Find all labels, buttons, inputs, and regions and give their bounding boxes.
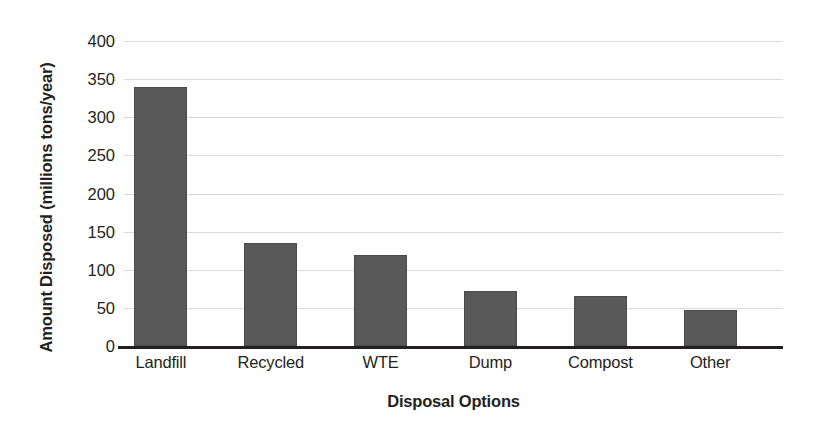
x-axis-title: Disposal Options — [124, 392, 783, 411]
y-axis-title-units: (millions tons/year) — [37, 63, 55, 210]
y-axis-title-bold: Amount Disposed — [37, 214, 55, 352]
bar-dump — [464, 291, 517, 346]
y-axis-tick-label: 300 — [87, 108, 115, 127]
x-axis-label-compost: Compost — [568, 353, 633, 372]
gridline — [124, 270, 783, 271]
gridline — [124, 232, 783, 233]
bar-other — [684, 310, 737, 346]
y-axis-tick-label: 400 — [87, 32, 115, 51]
y-axis-title: Amount Disposed (millions tons/year) — [0, 0, 92, 433]
y-axis-tick-label: 200 — [87, 184, 115, 203]
x-axis-label-recycled: Recycled — [238, 353, 304, 372]
plot-area: 400350300250200150100500 LandfillRecycle… — [124, 41, 783, 346]
x-axis-label-landfill: Landfill — [136, 353, 187, 372]
x-axis-line — [118, 346, 783, 349]
bar-wte — [354, 255, 407, 347]
gridline — [124, 117, 783, 118]
y-axis-tick-label: 150 — [87, 222, 115, 241]
bar-recycled — [244, 243, 297, 346]
y-axis-tick-label: 50 — [97, 298, 115, 317]
gridline — [124, 308, 783, 309]
y-axis-tick-label: 350 — [87, 70, 115, 89]
gridline — [124, 155, 783, 156]
gridline — [124, 79, 783, 80]
y-axis-tick-label: 0 — [106, 337, 115, 356]
y-axis-tick-label: 100 — [87, 260, 115, 279]
x-axis-label-wte: WTE — [363, 353, 399, 372]
gridline — [124, 194, 783, 195]
x-axis-label-dump: Dump — [469, 353, 512, 372]
bar-chart: Amount Disposed (millions tons/year) 400… — [0, 0, 818, 433]
bar-landfill — [134, 87, 187, 346]
bar-compost — [574, 296, 627, 346]
y-axis-tick-label: 250 — [87, 146, 115, 165]
x-axis-label-other: Other — [690, 353, 730, 372]
gridline — [124, 41, 783, 42]
